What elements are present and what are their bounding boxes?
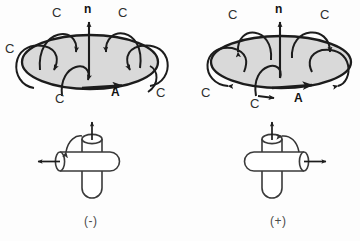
right-circulation-label-bottom: C [250, 97, 259, 110]
right-circulation-loop-bottom-tail [258, 96, 274, 98]
left-cylinder-rotation-arrow [66, 136, 82, 152]
right-surface-group [207, 22, 351, 98]
left-circulation-label-right: C [156, 86, 165, 99]
figure-root: C C C C C n A (-) C C C C n A (+) [0, 0, 360, 241]
diagram-canvas [0, 0, 360, 241]
right-circulation-label-top-left: C [228, 8, 237, 21]
left-area-vector-label: A [111, 86, 120, 98]
right-circulation-label-left: C [201, 86, 210, 99]
right-cylinder-group [245, 122, 326, 198]
left-normal-vector-label: n [84, 3, 91, 15]
left-surface-group [16, 22, 167, 96]
right-area-vector-label: A [294, 92, 303, 104]
left-cylinder-group [38, 122, 120, 198]
right-cylinder-rotation-arrow [282, 136, 299, 152]
right-circulation-label-top-right: C [320, 8, 329, 21]
right-horizontal-cylinder-body [245, 152, 304, 171]
left-circulation-label-bottom: C [55, 92, 64, 105]
left-circulation-label-top-right: C [118, 6, 127, 19]
left-circulation-label-top-left: C [52, 6, 61, 19]
right-normal-vector-label: n [275, 3, 282, 15]
left-sign-label: (-) [84, 215, 98, 227]
left-horizontal-cylinder-body [60, 152, 120, 171]
left-circulation-label-left: C [5, 42, 14, 55]
right-sign-label: (+) [270, 215, 287, 227]
